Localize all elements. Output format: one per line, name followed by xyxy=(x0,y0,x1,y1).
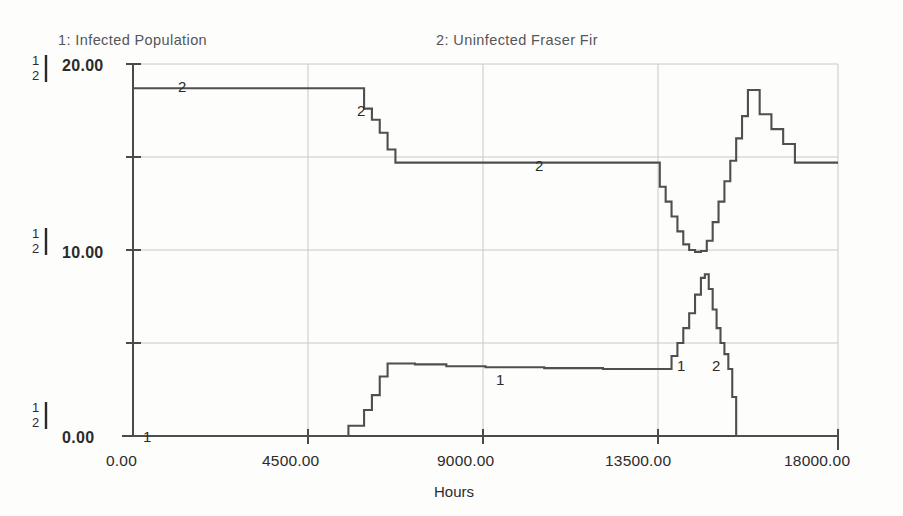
series-key-1-bottom: 1 xyxy=(32,400,39,415)
series-line-infected-population xyxy=(133,274,838,436)
chart-page: 1: Infected Population 2: Uninfected Fra… xyxy=(0,0,903,516)
x-tick-label-18000: 18000.00 xyxy=(784,452,850,469)
x-tick-label-13500: 13500.00 xyxy=(605,452,671,469)
series-line-uninfected-fraser-fir xyxy=(133,88,838,252)
y-tick-label-0: 0.00 xyxy=(62,429,94,446)
inline-marker-2-c: 2 xyxy=(535,157,543,174)
x-tick-label-4500: 4500.00 xyxy=(262,452,320,469)
series-key-1-top: 1 xyxy=(32,53,39,68)
inline-marker-2-b: 2 xyxy=(357,102,365,119)
inline-series-markers: 2 2 2 1 1 2 1 xyxy=(143,78,720,445)
inline-marker-2-a: 2 xyxy=(178,78,186,95)
y-tick-label-20: 20.00 xyxy=(62,57,104,74)
x-axis-title: Hours xyxy=(434,483,474,500)
series-key-mid: 1 2 xyxy=(32,226,46,256)
y-tickmarks xyxy=(122,64,141,436)
series-key-2-bottom: 2 xyxy=(32,415,39,430)
series-key-2-mid: 2 xyxy=(32,241,39,256)
series-key-top: 1 2 xyxy=(32,53,46,83)
legend-item-series2: 2: Uninfected Fraser Fir xyxy=(436,32,598,48)
grid-horizontal xyxy=(133,64,838,343)
x-tick-label-9000: 9000.00 xyxy=(437,452,495,469)
y-tick-label-10: 10.00 xyxy=(62,244,104,261)
series-key-1-mid: 1 xyxy=(32,226,39,241)
series-key-2-top: 2 xyxy=(32,68,39,83)
inline-marker-1-a: 1 xyxy=(496,371,504,388)
series-key-bottom: 1 2 xyxy=(32,400,46,430)
inline-marker-1-b: 1 xyxy=(677,357,685,374)
legend-item-series1: 1: Infected Population xyxy=(58,32,207,48)
inline-marker-2-d: 2 xyxy=(712,357,720,374)
inline-marker-1-c: 1 xyxy=(143,428,151,445)
x-tick-label-0: 0.00 xyxy=(106,452,137,469)
x-tickmarks xyxy=(308,429,838,450)
line-chart: 1: Infected Population 2: Uninfected Fra… xyxy=(0,0,903,516)
